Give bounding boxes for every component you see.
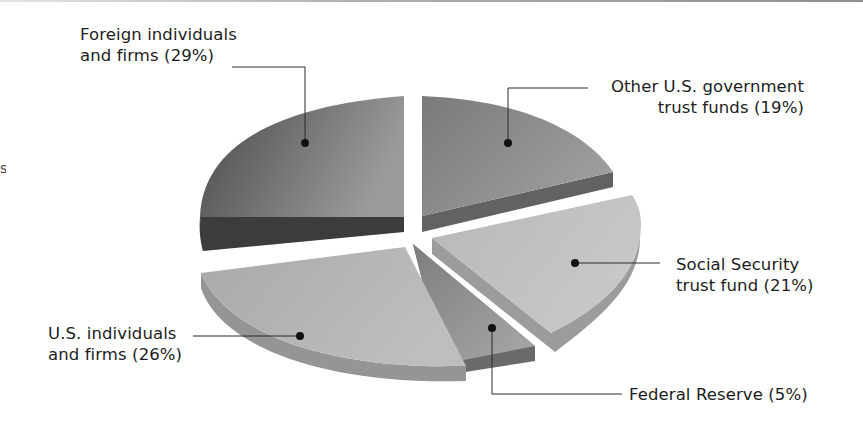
label-federal-reserve: Federal Reserve (5%)	[629, 384, 808, 405]
callout-dot	[301, 139, 309, 147]
callout-dot	[571, 259, 579, 267]
label-other-gov-trust-funds: Other U.S. government trust funds (19%)	[596, 76, 804, 118]
label-foreign-individuals: Foreign individuals and firms (29%)	[80, 24, 237, 66]
callout-dot	[504, 139, 512, 147]
label-social-security: Social Security trust fund (21%)	[676, 254, 814, 296]
slice-foreign-individuals	[200, 96, 404, 251]
callout-dot	[296, 332, 304, 340]
label-us-individuals: U.S. individuals and firms (26%)	[48, 323, 182, 365]
slice-foreign-side	[200, 217, 404, 251]
slice-foreign-top	[200, 96, 404, 217]
callout-dot	[488, 324, 496, 332]
